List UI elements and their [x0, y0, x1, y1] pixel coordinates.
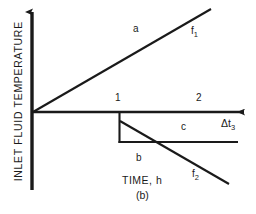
annotation-f1-subscript: 1	[194, 30, 198, 39]
annotation-delta-t3-base: Δt	[221, 117, 231, 129]
x-marker-two: 2	[196, 93, 202, 103]
annotation-curve-a: a	[133, 24, 139, 34]
series-f1-line	[33, 9, 211, 112]
annotation-curve-b: b	[136, 153, 142, 163]
annotation-delta-t3-subscript: 3	[231, 123, 235, 132]
panel-label: (b)	[136, 190, 149, 201]
annotation-f1: f1	[191, 26, 198, 36]
annotation-curve-c: c	[181, 122, 186, 132]
figure-panel-b: INLET FLUID TEMPERATURE a f1 1 2 c b f2 …	[0, 0, 256, 214]
x-axis-title: TIME, h	[122, 175, 162, 186]
y-axis-title: INLET FLUID TEMPERATURE	[13, 15, 24, 187]
annotation-delta-t3: Δt3	[221, 118, 235, 129]
annotation-f2: f2	[192, 169, 199, 179]
annotation-f2-subscript: 2	[195, 173, 199, 182]
x-marker-one: 1	[115, 93, 121, 103]
